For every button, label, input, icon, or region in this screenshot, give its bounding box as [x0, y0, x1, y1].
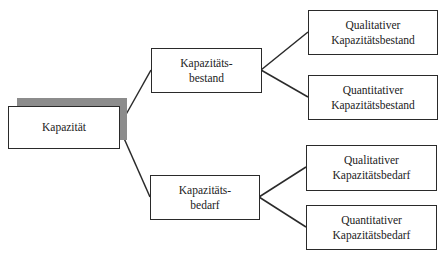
node-kapazitaet: Kapazität: [8, 106, 120, 149]
node-label: Quantitativer Kapazitätsbedarf: [333, 213, 411, 243]
node-label: Kapazitäts- bestand: [180, 56, 232, 86]
edge-bestand-quant: [261, 70, 308, 97]
edge-bedarf-qual: [259, 167, 306, 197]
node-kapazitaetsbedarf: Kapazitäts- bedarf: [150, 175, 260, 220]
node-label: Qualitativer Kapazitätsbedarf: [333, 153, 411, 183]
node-qualitativer-kapazitaetsbedarf: Qualitativer Kapazitätsbedarf: [306, 145, 437, 191]
node-label: Qualitativer Kapazitätsbestand: [331, 18, 415, 48]
edge-bestand-qual: [261, 32, 308, 70]
node-qualitativer-kapazitaetsbestand: Qualitativer Kapazitätsbestand: [308, 10, 438, 55]
node-quantitativer-kapazitaetsbestand: Quantitativer Kapazitätsbestand: [308, 75, 438, 120]
node-kapazitaetsbestand: Kapazitäts- bestand: [151, 48, 262, 93]
node-label: Kapazitäts- bedarf: [179, 183, 231, 213]
node-label: Kapazität: [42, 120, 86, 135]
node-quantitativer-kapazitaetsbedarf: Quantitativer Kapazitätsbedarf: [306, 205, 437, 250]
edge-bedarf-quant: [259, 197, 306, 227]
node-label: Quantitativer Kapazitätsbestand: [331, 83, 415, 113]
